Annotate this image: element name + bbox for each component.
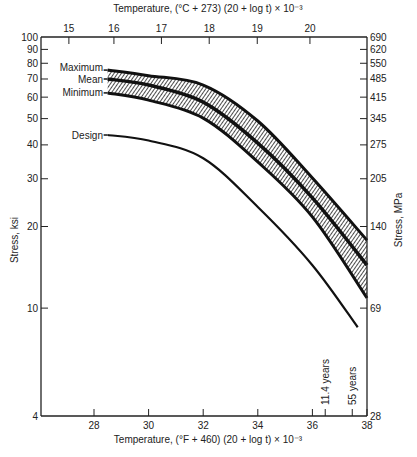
y-tick-label: 70 — [27, 73, 39, 84]
series-label-mean: Mean — [78, 74, 103, 85]
y2-tick-label: 275 — [370, 139, 387, 150]
x2-tick-label: 16 — [108, 23, 120, 34]
y2-tick-label: 345 — [370, 113, 387, 124]
y-axis-title: Stress, ksi — [9, 217, 20, 263]
x2-axis-title: Temperature, (°C + 273) (20 + log t) × 1… — [113, 3, 303, 14]
x2-tick-label: 15 — [63, 23, 75, 34]
y-tick-label: 100 — [21, 32, 38, 43]
y2-tick-label: 485 — [370, 73, 387, 84]
series-label-design: Design — [72, 130, 103, 141]
x-tick-label: 32 — [198, 420, 210, 431]
y2-tick-label: 28 — [370, 411, 382, 422]
y2-tick-label: 140 — [370, 221, 387, 232]
x2-tick-label: 18 — [204, 23, 216, 34]
x-tick-label: 36 — [307, 420, 319, 431]
y2-axis-title: Stress, MPa — [393, 192, 404, 247]
y-tick-label: 40 — [27, 139, 39, 150]
annotation-55-years: 55 years — [347, 367, 358, 405]
x-axis-title: Temperature, (°F + 460) (20 + log t) × 1… — [114, 434, 303, 445]
y2-tick-label: 620 — [370, 44, 387, 55]
y-tick-label: 30 — [27, 173, 39, 184]
x2-tick-label: 19 — [252, 23, 264, 34]
y-tick-label: 20 — [27, 221, 39, 232]
series-label-maximum: Maximum — [60, 62, 103, 73]
y-tick-label: 4 — [32, 411, 38, 422]
series-line-design — [108, 135, 358, 327]
y-tick-label: 50 — [27, 113, 39, 124]
y2-tick-label: 205 — [370, 173, 387, 184]
series-label-minimum: Minimum — [62, 87, 103, 98]
x-tick-label: 38 — [361, 420, 373, 431]
y2-tick-label: 415 — [370, 92, 387, 103]
chart: 2830323436381516171819204102030405060708… — [0, 0, 417, 457]
annotation-11-4-years: 11.4 years — [320, 359, 331, 405]
y2-tick-label: 550 — [370, 58, 387, 69]
y-tick-label: 90 — [27, 44, 39, 55]
y-tick-label: 80 — [27, 58, 39, 69]
x-tick-label: 30 — [143, 420, 155, 431]
x-tick-label: 28 — [88, 420, 100, 431]
x2-tick-label: 17 — [156, 23, 168, 34]
y-tick-label: 60 — [27, 92, 39, 103]
y2-tick-label: 69 — [370, 303, 382, 314]
y-tick-label: 10 — [27, 303, 39, 314]
x2-tick-label: 20 — [304, 23, 316, 34]
x-tick-label: 34 — [252, 420, 264, 431]
y2-tick-label: 690 — [370, 32, 387, 43]
